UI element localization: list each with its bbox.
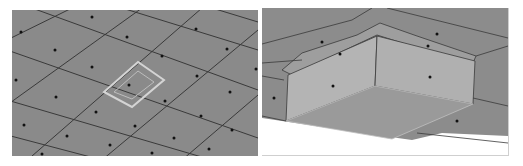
extruded-face-image xyxy=(262,8,508,155)
quad-mesh-image xyxy=(12,10,258,156)
left-mesh-panel xyxy=(12,10,258,156)
right-extrusion-panel xyxy=(262,8,509,156)
